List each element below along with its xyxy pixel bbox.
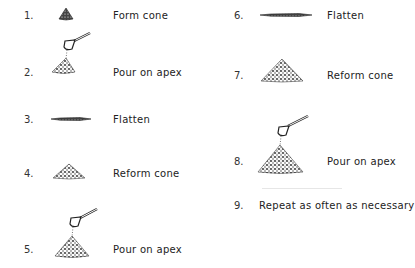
step-label: Flatten [327,10,364,21]
step-label: Reform cone [327,70,394,81]
step-number: 5. [24,244,34,255]
step-number: 2. [24,67,34,78]
step-label: Pour on apex [113,244,182,255]
step-number: 7. [234,70,244,81]
flattened-pile-icon [259,12,313,18]
cone-icon [260,58,304,84]
step-number: 9. [234,200,244,211]
step-number: 6. [234,10,244,21]
step-number: 1. [24,10,34,21]
step-label: Flatten [113,114,150,125]
cone-icon [52,163,86,180]
flattened-pile-icon [50,116,92,122]
small-cone-icon [58,7,74,21]
scoop-pour-cone-icon [52,208,98,260]
step-number: 8. [234,156,244,167]
step-number: 3. [24,114,34,125]
step-label: Repeat as often as necessary [259,200,415,211]
step-label: Pour on apex [113,67,182,78]
scoop-pour-cone-icon [258,116,314,176]
step-number: 4. [24,168,34,179]
step-label: Pour on apex [327,156,396,167]
step-label: Form cone [113,10,168,21]
divider [262,188,342,189]
scoop-pour-cone-icon [48,32,93,80]
step-label: Reform cone [113,168,180,179]
